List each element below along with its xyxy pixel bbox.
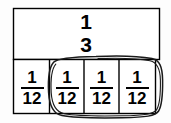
fraction-denominator: 3	[80, 34, 92, 55]
fraction-numerator: 1	[80, 11, 92, 32]
fraction-label-one-twelfth: 1 12	[84, 63, 119, 112]
fraction-label-one-third: 1 3	[68, 11, 104, 55]
fraction-label-one-twelfth: 1 12	[50, 63, 84, 112]
fraction-label-one-twelfth: 1 12	[119, 63, 155, 112]
fraction-numerator: 1	[62, 69, 71, 86]
fraction-numerator: 1	[132, 69, 141, 86]
fraction-numerator: 1	[97, 69, 106, 86]
fraction-denominator: 12	[92, 90, 111, 107]
fraction-denominator: 12	[58, 90, 77, 107]
fraction-denominator: 12	[23, 90, 42, 107]
fraction-denominator: 12	[128, 90, 147, 107]
fraction-numerator: 1	[27, 69, 36, 86]
fraction-label-one-twelfth: 1 12	[14, 63, 50, 112]
fraction-bar-diagram: 1 3 1 12 1 12 1 12 1 12	[0, 0, 171, 123]
